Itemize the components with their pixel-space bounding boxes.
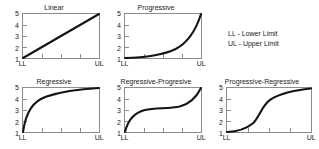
chart-panel-progressive: Progressive 1 2 3 4 5 LL: [110, 4, 202, 70]
y-tick-label: 4: [117, 95, 121, 102]
y-axis-labels: 1 2 3 4 5: [8, 13, 22, 59]
y-axis-labels: 1 2 3 4 5: [110, 87, 124, 133]
y-tick-label: 5: [15, 84, 19, 91]
y-tick-label: 4: [117, 21, 121, 28]
x-axis-labels: LL UL: [22, 133, 100, 144]
plot-area: 1 2 3 4 5: [110, 87, 202, 133]
x-tick-label-lower-limit: LL: [19, 134, 27, 142]
y-tick-label: 5: [117, 84, 121, 91]
curve-progressive: [125, 14, 201, 58]
chart-panel-regressive-progressive: Regressive-Progresive 1 2 3 4 5: [110, 78, 202, 144]
y-axis-labels: 1 2 3 4 5: [8, 87, 22, 133]
chart-title: Progressive-Regressive: [212, 78, 312, 86]
x-tick-label-upper-limit: UL: [95, 60, 104, 68]
x-tick-label-upper-limit: UL: [197, 60, 206, 68]
y-tick-label: 3: [15, 33, 19, 40]
plot-frame: [124, 87, 202, 133]
curve-progressive-regressive: [227, 88, 311, 132]
plot-frame: [226, 87, 312, 133]
y-axis-labels: 1 2 3 4 5: [110, 13, 124, 59]
x-tick-label-lower-limit: LL: [121, 134, 129, 142]
y-tick-label: 2: [15, 118, 19, 125]
y-tick-label: 4: [219, 95, 223, 102]
plot-area: 1 2 3 4 5: [8, 13, 100, 59]
y-tick-label: 3: [117, 107, 121, 114]
x-axis-labels: LL UL: [226, 133, 312, 144]
chart-title: Regressive-Progresive: [110, 78, 202, 86]
y-tick-label: 5: [117, 10, 121, 17]
x-tick-label-upper-limit: UL: [95, 134, 104, 142]
x-tick-label-lower-limit: LL: [121, 60, 129, 68]
x-tick-label-lower-limit: LL: [19, 60, 27, 68]
x-axis-labels: LL UL: [124, 59, 202, 70]
legend-upper-limit: UL - Upper Limit: [228, 39, 279, 49]
plot-frame: [124, 13, 202, 59]
y-tick-label: 2: [117, 118, 121, 125]
plot-frame: [22, 87, 100, 133]
y-tick-label: 5: [219, 84, 223, 91]
plot-frame: [22, 13, 100, 59]
chart-title: Regressive: [8, 78, 100, 86]
chart-panel-regressive: Regressive 1 2 3 4 5 LL: [8, 78, 100, 144]
x-tick-label-upper-limit: UL: [197, 134, 206, 142]
chart-title: Progressive: [110, 4, 202, 12]
y-tick-label: 3: [117, 33, 121, 40]
plot-area: 1 2 3 4 5: [212, 87, 312, 133]
x-axis-labels: LL UL: [22, 59, 100, 70]
y-tick-label: 4: [15, 21, 19, 28]
chart-title: Linear: [8, 4, 100, 12]
figure-panel-grid: Linear 1 2 3 4 5 LL UL: [0, 0, 319, 149]
y-tick-label: 2: [117, 44, 121, 51]
curve-regressive-progressive: [125, 88, 201, 132]
chart-panel-linear: Linear 1 2 3 4 5 LL UL: [8, 4, 100, 70]
y-tick-label: 2: [219, 118, 223, 125]
x-tick-label-lower-limit: LL: [223, 134, 231, 142]
curve-linear: [23, 14, 99, 58]
curve-regressive: [23, 88, 99, 132]
plot-area: 1 2 3 4 5: [110, 13, 202, 59]
plot-area: 1 2 3 4 5: [8, 87, 100, 133]
y-axis-labels: 1 2 3 4 5: [212, 87, 226, 133]
y-tick-label: 3: [15, 107, 19, 114]
legend-lower-limit: LL - Lower Limit: [228, 29, 279, 39]
y-tick-label: 4: [15, 95, 19, 102]
y-tick-label: 3: [219, 107, 223, 114]
y-tick-label: 5: [15, 10, 19, 17]
x-axis-labels: LL UL: [124, 133, 202, 144]
y-tick-label: 2: [15, 44, 19, 51]
legend-limits: LL - Lower Limit UL - Upper Limit: [228, 29, 279, 49]
chart-panel-progressive-regressive: Progressive-Regressive 1 2 3 4 5: [212, 78, 312, 144]
x-tick-label-upper-limit: UL: [307, 134, 316, 142]
